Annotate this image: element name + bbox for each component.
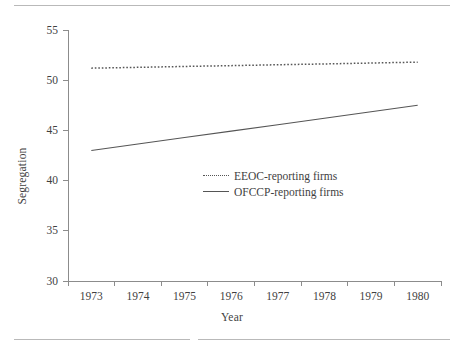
y-axis-title: Segregation	[16, 121, 28, 231]
series-line-eeoc	[91, 62, 417, 68]
x-tick-label: 1976	[208, 289, 255, 303]
legend-label-eeoc: EEOC-reporting firms	[234, 170, 337, 182]
y-tick-label: 40	[32, 174, 58, 187]
chart-legend: EEOC-reporting firms OFCCP-reporting fir…	[203, 168, 393, 200]
data-series-group	[91, 62, 417, 150]
series-line-ofccp	[91, 105, 417, 150]
figure-container: 303540455055 197319741975197619771978197…	[0, 0, 464, 350]
y-tick-label: 50	[32, 74, 58, 87]
y-tick-label: 35	[32, 224, 58, 237]
y-tick-label: 45	[32, 124, 58, 137]
x-tick-label: 1973	[68, 289, 115, 303]
legend-item-eeoc: EEOC-reporting firms	[203, 168, 393, 184]
x-tick-label: 1980	[394, 289, 441, 303]
legend-label-ofccp: OFCCP-reporting firms	[234, 186, 344, 198]
y-tick-label: 30	[32, 275, 58, 288]
x-tick-label: 1978	[301, 289, 348, 303]
x-tick-label: 1979	[348, 289, 395, 303]
x-axis-title: Year	[0, 311, 464, 323]
x-tick-label: 1974	[115, 289, 162, 303]
solid-line-swatch-icon	[203, 187, 229, 197]
x-tick-label: 1977	[255, 289, 302, 303]
dotted-line-swatch-icon	[203, 171, 229, 181]
legend-item-ofccp: OFCCP-reporting firms	[203, 184, 393, 200]
y-tick-label: 55	[32, 24, 58, 37]
x-tick-label: 1975	[161, 289, 208, 303]
